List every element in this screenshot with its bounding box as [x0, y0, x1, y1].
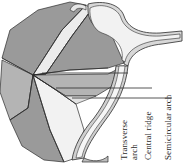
label-semicircular-arch-line1: Semicircular arch [163, 94, 173, 160]
tube-foot [82, 156, 108, 162]
label-central-ridge: Central ridge [143, 111, 153, 160]
label-central-ridge-line1: Central ridge [143, 111, 153, 160]
label-semicircular-arch: Semicircular arch [163, 94, 173, 160]
figure-container: Transverse arch Central ridge Semicircul… [0, 0, 184, 164]
structure-illustration: Transverse arch Central ridge Semicircul… [0, 0, 184, 164]
label-transverse-arch-line2: arch [129, 144, 139, 160]
label-transverse-arch: Transverse arch [119, 120, 139, 160]
label-transverse-arch-line1: Transverse [119, 120, 129, 160]
